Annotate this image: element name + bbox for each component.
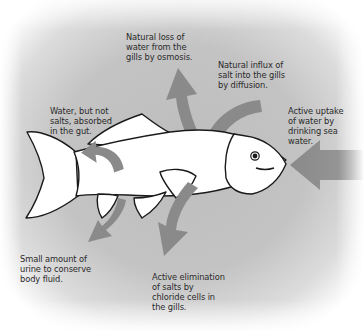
label-urine: Small amount of urine to conserve body f…: [20, 254, 91, 284]
label-drinking: Active uptake of water by drinking sea w…: [288, 106, 343, 146]
label-gut-absorption: Water, but not salts, absorbed in the gu…: [50, 106, 112, 136]
label-water-loss-gills: Natural loss of water from the gills by …: [126, 32, 192, 62]
label-salt-elimination: Active elimination of salts by chloride …: [152, 272, 225, 312]
label-salt-influx-gills: Natural influx of salt into the gills by…: [218, 60, 285, 90]
fish-eye-icon: [251, 152, 259, 160]
osmoregulation-diagram: Natural loss of water from the gills by …: [0, 0, 364, 332]
arrow-drinking-icon: [290, 140, 364, 190]
